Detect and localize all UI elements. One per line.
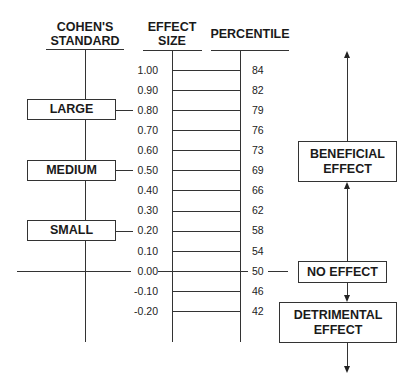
effect-size-value: 0.30 (124, 204, 158, 216)
header-cohens-line1: COHEN'S (40, 20, 130, 34)
scale-tick (172, 190, 240, 191)
scale-tick (172, 170, 240, 171)
header-effect-size: EFFECT SIZE (140, 20, 204, 48)
header-effect-line2: SIZE (140, 34, 204, 48)
effect-size-value: 0.40 (124, 184, 158, 196)
effect-size-value: 0.20 (124, 224, 158, 236)
scale-tick (172, 70, 240, 71)
scale-tick (172, 110, 240, 111)
effect-size-axis (172, 50, 173, 342)
arrow-down-bottom-icon (344, 366, 350, 373)
percentile-value: 46 (252, 285, 264, 297)
effect-size-value: 0.90 (124, 84, 158, 96)
cohens-axis (85, 49, 86, 342)
beneficial-effect-box: BENEFICIAL EFFECT (298, 141, 397, 182)
percentile-value: 69 (252, 164, 264, 176)
percentile-value: 79 (252, 104, 264, 116)
percentile-underline (211, 50, 289, 51)
beneficial-line2: EFFECT (323, 162, 372, 177)
effect-size-value: 0.60 (124, 144, 158, 156)
scale-tick (172, 251, 240, 252)
cohen-small-box: SMALL (27, 220, 116, 241)
percentile-value: 73 (252, 144, 264, 156)
percentile-value: 76 (252, 124, 264, 136)
cohen-large-box: LARGE (27, 99, 116, 120)
header-effect-line1: EFFECT (140, 20, 204, 34)
percentile-value: 66 (252, 184, 264, 196)
scale-tick (172, 231, 240, 232)
percentile-axis (240, 50, 241, 342)
cohen-large-connector (115, 110, 133, 111)
effect-size-value: 1.00 (124, 64, 158, 76)
beneficial-arrow-shaft (347, 57, 348, 141)
percentile-value: 58 (252, 224, 264, 236)
cohen-medium-box: MEDIUM (27, 160, 116, 181)
scale-tick (172, 90, 240, 91)
zero-line-left (17, 271, 131, 272)
effect-size-value: -0.10 (124, 285, 158, 297)
zero-line-mid (158, 271, 248, 272)
detrimental-arrow-shaft (347, 343, 348, 367)
beneficial-line1: BENEFICIAL (310, 147, 385, 162)
scale-tick (172, 291, 240, 292)
no-effect-down-shaft (347, 282, 348, 296)
header-cohens-line2: STANDARD (40, 34, 130, 48)
scale-tick (172, 311, 240, 312)
header-cohens-standard: COHEN'S STANDARD (40, 20, 130, 48)
detrimental-line2: EFFECT (314, 323, 363, 338)
scale-tick (172, 150, 240, 151)
no-effect-box: NO EFFECT (298, 261, 387, 283)
percentile-value: 84 (252, 64, 264, 76)
cohen-medium-connector (115, 170, 133, 171)
effect-size-value: 0.70 (124, 124, 158, 136)
scale-tick (172, 130, 240, 131)
header-percentile: PERCENTILE (208, 27, 292, 41)
effect-size-value: -0.20 (124, 305, 158, 317)
arrow-down-detrimental-icon (344, 295, 350, 302)
percentile-value: 54 (252, 245, 264, 257)
detrimental-line1: DETRIMENTAL (294, 308, 383, 323)
zero-line-right (268, 271, 288, 272)
percentile-value: 62 (252, 204, 264, 216)
detrimental-effect-box: DETRIMENTAL EFFECT (279, 302, 397, 343)
cohen-small-connector (115, 231, 133, 232)
no-effect-up-shaft (347, 188, 348, 261)
percentile-value: 82 (252, 84, 264, 96)
percentile-value: 50 (252, 265, 264, 277)
scale-tick (172, 211, 240, 212)
percentile-value: 42 (252, 305, 264, 317)
effect-size-value: 0.10 (124, 245, 158, 257)
